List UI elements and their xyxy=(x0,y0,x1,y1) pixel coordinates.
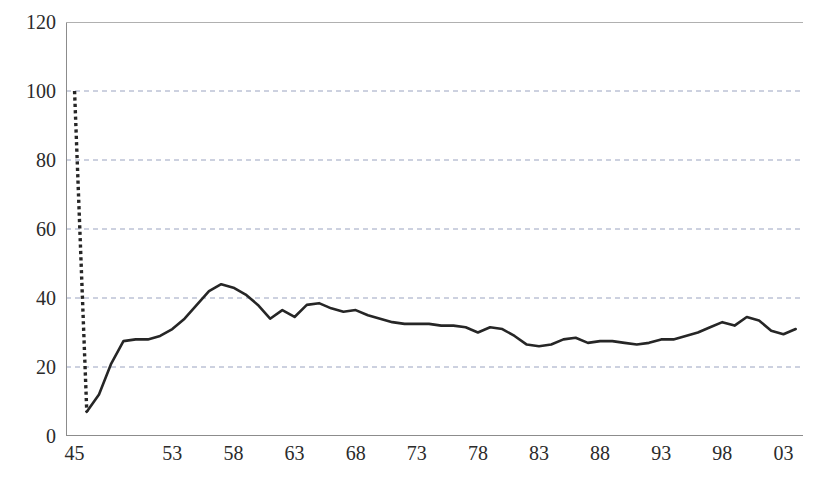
data-series-group xyxy=(75,91,796,412)
x-tick-label-53: 53 xyxy=(162,443,182,463)
y-tick-label-100: 100 xyxy=(26,81,56,101)
x-tick-label-93: 93 xyxy=(651,443,671,463)
cropped-footer-sliver xyxy=(0,474,819,479)
series-dotted-segment xyxy=(75,91,87,412)
x-tick-label-68: 68 xyxy=(346,443,366,463)
x-tick-label-45: 45 xyxy=(65,443,85,463)
x-tick-label-88: 88 xyxy=(590,443,610,463)
y-tick-label-80: 80 xyxy=(36,150,56,170)
x-tick-label-03: 03 xyxy=(773,443,793,463)
line-chart-svg xyxy=(66,22,803,436)
x-tick-label-98: 98 xyxy=(712,443,732,463)
chart-container: 120100806040200 455358636873788388939803 xyxy=(0,0,819,479)
y-tick-label-60: 60 xyxy=(36,219,56,239)
cropped-title-sliver xyxy=(0,0,819,4)
series-solid-segment xyxy=(87,284,796,412)
y-tick-label-120: 120 xyxy=(26,12,56,32)
x-tick-label-58: 58 xyxy=(223,443,243,463)
plot-area xyxy=(66,22,803,436)
x-tick-label-73: 73 xyxy=(407,443,427,463)
y-tick-label-40: 40 xyxy=(36,288,56,308)
x-tick-label-83: 83 xyxy=(529,443,549,463)
x-tick-label-78: 78 xyxy=(468,443,488,463)
y-tick-label-20: 20 xyxy=(36,357,56,377)
y-axis-labels: 120100806040200 xyxy=(0,0,56,479)
x-axis-labels: 455358636873788388939803 xyxy=(0,443,819,473)
x-tick-label-63: 63 xyxy=(285,443,305,463)
